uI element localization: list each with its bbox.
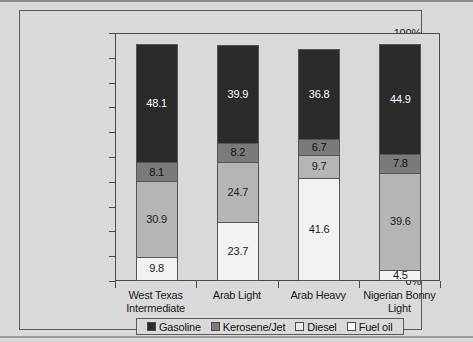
stacked-bar[interactable]: 41.69.76.736.8 xyxy=(298,32,340,280)
bar-segment-value: 44.9 xyxy=(390,94,411,105)
bar-segment-value: 39.9 xyxy=(228,89,249,100)
legend-swatch-icon xyxy=(347,322,356,331)
legend-label: Kerosene/Jet xyxy=(223,321,285,333)
bar-segment-kerosene-jet[interactable]: 8.1 xyxy=(136,162,178,182)
x-axis-category-label: Nigerian BonnyLight xyxy=(359,289,440,315)
bar-segment-fuel-oil[interactable]: 41.6 xyxy=(298,178,340,281)
bar-segment-kerosene-jet[interactable]: 7.8 xyxy=(379,154,421,173)
legend-label: Gasoline xyxy=(159,321,201,333)
stacked-bar[interactable]: 4.539.67.844.9 xyxy=(379,32,421,280)
x-axis-category-label-line: Light xyxy=(359,302,440,315)
bar-segment-value: 7.8 xyxy=(393,158,408,169)
bar-segment-value: 8.1 xyxy=(149,167,164,178)
bar-segment-kerosene-jet[interactable]: 6.7 xyxy=(298,139,340,156)
x-axis-category-label-line: West Texas xyxy=(115,289,196,302)
bar-segment-gasoline[interactable]: 39.9 xyxy=(217,45,259,144)
bar-segment-diesel[interactable]: 39.6 xyxy=(379,173,421,271)
bar-segment-diesel[interactable]: 9.7 xyxy=(298,155,340,179)
x-axis-category-label-line: Arab Light xyxy=(196,289,277,302)
bar-segment-value: 23.7 xyxy=(228,246,249,257)
x-axis-category-label-line: Arab Heavy xyxy=(278,289,359,302)
bar-segment-gasoline[interactable]: 44.9 xyxy=(379,44,421,155)
x-axis-tick-mark xyxy=(115,281,116,288)
bar-segment-value: 6.7 xyxy=(312,142,327,153)
chart-screenshot: 0%10%20%30%40%50%60%70%80%90%100% 9.830.… xyxy=(0,0,473,342)
x-axis-category-label: Arab Light xyxy=(196,289,277,302)
bar-segment-value: 4.5 xyxy=(393,270,408,281)
x-axis-category-label-line: Nigerian Bonny xyxy=(359,289,440,302)
bar-segment-kerosene-jet[interactable]: 8.2 xyxy=(217,143,259,163)
legend-item[interactable]: Gasoline xyxy=(147,321,201,333)
bar-segment-diesel[interactable]: 24.7 xyxy=(217,162,259,223)
bar-segment-fuel-oil[interactable]: 9.8 xyxy=(136,257,178,281)
bar-segment-value: 24.7 xyxy=(228,187,249,198)
page-bottom-border xyxy=(0,336,473,338)
chart-legend: GasolineKerosene/JetDieselFuel oil xyxy=(136,318,404,335)
legend-swatch-icon xyxy=(211,322,220,331)
bar-segment-fuel-oil[interactable]: 4.5 xyxy=(379,270,421,281)
x-axis-tick-mark xyxy=(196,281,197,288)
x-axis-category-label-line: Intermediate xyxy=(115,302,196,315)
bar-segment-value: 36.8 xyxy=(309,89,330,100)
legend-item[interactable]: Kerosene/Jet xyxy=(211,321,285,333)
legend-swatch-icon xyxy=(147,322,156,331)
x-axis-tick-mark xyxy=(359,281,360,288)
bar-segment-value: 9.7 xyxy=(312,161,327,172)
bar-segment-diesel[interactable]: 30.9 xyxy=(136,181,178,258)
x-axis-tick-mark xyxy=(278,281,279,288)
chart-frame: 0%10%20%30%40%50%60%70%80%90%100% 9.830.… xyxy=(19,10,422,330)
x-axis-tick-mark xyxy=(440,281,441,288)
bar-segment-value: 30.9 xyxy=(146,214,167,225)
legend-item[interactable]: Fuel oil xyxy=(347,321,393,333)
plot-area: 9.830.98.148.123.724.78.239.941.69.76.73… xyxy=(115,33,440,281)
legend-label: Fuel oil xyxy=(359,321,393,333)
legend-label: Diesel xyxy=(307,321,336,333)
stacked-bar[interactable]: 23.724.78.239.9 xyxy=(217,32,259,280)
x-axis-category-label: West TexasIntermediate xyxy=(115,289,196,315)
bar-segment-value: 48.1 xyxy=(146,98,167,109)
bar-segment-value: 41.6 xyxy=(309,224,330,235)
x-axis-category-label: Arab Heavy xyxy=(278,289,359,302)
legend-item[interactable]: Diesel xyxy=(295,321,336,333)
bar-segment-gasoline[interactable]: 48.1 xyxy=(136,44,178,163)
bar-segment-gasoline[interactable]: 36.8 xyxy=(298,49,340,140)
bar-segment-value: 8.2 xyxy=(231,147,246,158)
bar-segment-value: 39.6 xyxy=(390,216,411,227)
bar-segment-fuel-oil[interactable]: 23.7 xyxy=(217,222,259,281)
stacked-bar[interactable]: 9.830.98.148.1 xyxy=(136,32,178,280)
page-top-border xyxy=(0,0,473,2)
legend-swatch-icon xyxy=(295,322,304,331)
bar-segment-value: 9.8 xyxy=(149,263,164,274)
